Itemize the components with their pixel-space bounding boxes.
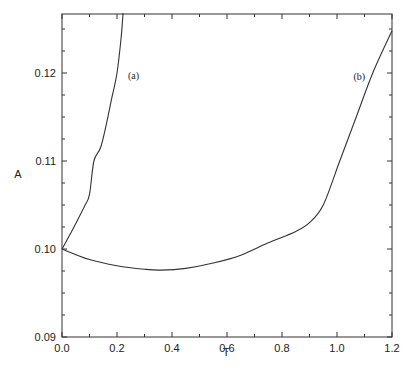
- x-tick-label: 0.8: [274, 342, 289, 354]
- y-tick-label: 0.12: [35, 67, 56, 79]
- x-tick-label: 0.2: [109, 342, 124, 354]
- axis-ticks: [62, 14, 392, 337]
- y-axis-label: A: [14, 168, 22, 180]
- chart: 0.00.20.40.60.81.01.2 0.090.100.110.12 (…: [0, 0, 409, 370]
- curve-b: [62, 31, 392, 270]
- curve-label: (a): [128, 70, 139, 82]
- x-tick-label: 1.0: [329, 342, 344, 354]
- curve-annotations: (a)(b): [128, 70, 365, 84]
- y-tick-label: 0.10: [35, 243, 56, 255]
- y-tick-label: 0.11: [35, 155, 56, 167]
- plot-frame: [62, 14, 392, 337]
- y-tick-label: 0.09: [35, 331, 56, 343]
- curve-a: [62, 13, 123, 249]
- x-axis-label: T: [223, 346, 230, 358]
- x-tick-label: 1.2: [384, 342, 399, 354]
- y-tick-labels: 0.090.100.110.12: [35, 67, 56, 343]
- x-tick-label: 0.4: [164, 342, 179, 354]
- curves: [62, 13, 392, 270]
- curve-label: (b): [354, 71, 366, 83]
- x-tick-label: 0.0: [54, 342, 69, 354]
